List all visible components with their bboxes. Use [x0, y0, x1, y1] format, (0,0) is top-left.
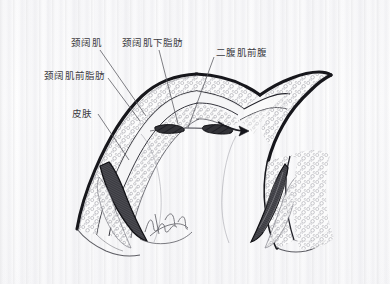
- elevated-flap-fat: [261, 74, 330, 145]
- anatomy-illustration: [0, 0, 390, 284]
- right-limb-outer-fat: [290, 150, 334, 249]
- label-subplatysmal-fat: 颈阔肌下脂肪: [122, 37, 184, 48]
- label-skin: 皮肤: [72, 108, 93, 119]
- left-limb-layers: [77, 74, 199, 256]
- label-platysma: 颈阔肌: [71, 37, 102, 48]
- label-anterior-belly-digastric: 二腹肌前腹: [216, 47, 268, 58]
- submental-floor-inner-right: [222, 136, 236, 243]
- digastric-belly-left: [155, 125, 184, 134]
- leader-platysma: [100, 50, 146, 116]
- artist-signature: [140, 214, 192, 244]
- figure-canvas: 颈阔肌 颈阔肌下脂肪 二腹肌前腹 颈阔肌前脂肪 皮肤: [0, 0, 390, 284]
- label-preplatysmal-fat: 颈阔肌前脂肪: [44, 70, 106, 81]
